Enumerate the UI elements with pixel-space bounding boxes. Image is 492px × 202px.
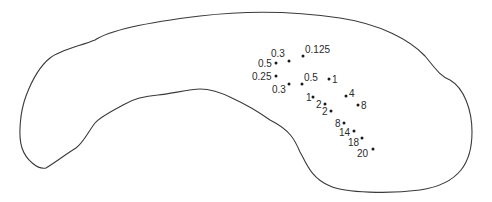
point-label: 18 bbox=[348, 137, 360, 148]
point-marker-icon bbox=[288, 60, 291, 63]
point-label: 4 bbox=[349, 88, 355, 99]
point-label: 0.5 bbox=[258, 58, 272, 69]
data-point: 20 bbox=[357, 148, 375, 160]
data-point: 0.5 bbox=[258, 58, 278, 69]
point-label: 0.125 bbox=[305, 44, 330, 55]
point-marker-icon bbox=[312, 96, 315, 99]
point-marker-icon bbox=[372, 148, 375, 151]
point-marker-icon bbox=[275, 62, 278, 65]
point-marker-icon bbox=[330, 110, 333, 113]
point-label: 0.25 bbox=[252, 71, 272, 82]
point-label: 0.3 bbox=[271, 48, 285, 59]
organ-diagram: 0.30.1250.50.250.510.3142828141820 bbox=[0, 0, 492, 202]
point-label: 2 bbox=[322, 106, 328, 117]
point-marker-icon bbox=[353, 130, 356, 133]
point-label: 1 bbox=[332, 74, 338, 85]
data-point: 2 bbox=[322, 106, 333, 117]
data-point: 0.25 bbox=[252, 71, 278, 82]
points-layer: 0.30.1250.50.250.510.3142828141820 bbox=[252, 44, 375, 159]
point-label: 20 bbox=[357, 148, 369, 159]
point-marker-icon bbox=[361, 137, 364, 140]
point-label: 1 bbox=[306, 92, 312, 103]
data-point: 0.3 bbox=[272, 83, 291, 96]
point-label: 8 bbox=[361, 100, 367, 111]
data-point: 1 bbox=[306, 92, 315, 103]
data-point: 1 bbox=[328, 74, 339, 85]
point-marker-icon bbox=[328, 78, 331, 81]
point-label: 0.3 bbox=[272, 84, 286, 95]
point-label: 0.5 bbox=[304, 72, 318, 83]
data-point: 0.5 bbox=[301, 72, 319, 86]
point-marker-icon bbox=[345, 95, 348, 98]
data-point: 8 bbox=[357, 100, 368, 111]
point-marker-icon bbox=[357, 104, 360, 107]
data-point: 0.125 bbox=[302, 44, 331, 58]
organ-outline bbox=[20, 12, 472, 192]
data-point: 4 bbox=[345, 88, 356, 99]
point-marker-icon bbox=[275, 75, 278, 78]
data-point: 18 bbox=[348, 137, 364, 149]
data-point: 0.3 bbox=[271, 48, 291, 63]
point-marker-icon bbox=[288, 83, 291, 86]
point-marker-icon bbox=[343, 122, 346, 125]
